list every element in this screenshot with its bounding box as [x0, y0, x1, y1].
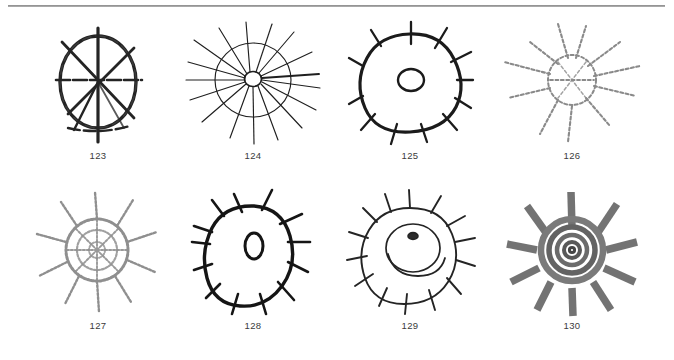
figure-drawing-129 — [330, 186, 490, 318]
figure-cell-125: 125 — [330, 14, 490, 184]
figure-cell-124: 124 — [173, 14, 333, 184]
figure-cell-127: 127 — [18, 184, 178, 354]
figure-caption-127: 127 — [18, 320, 178, 331]
figure-cell-126: 126 — [492, 14, 652, 184]
figure-caption-126: 126 — [492, 150, 652, 161]
figure-cell-128: 128 — [173, 184, 333, 354]
figure-row-top: 123 — [0, 14, 674, 184]
figure-drawing-125 — [330, 16, 490, 148]
figure-drawing-124 — [173, 16, 333, 148]
figure-caption-125: 125 — [330, 150, 490, 161]
figure-drawing-127 — [18, 186, 178, 318]
figure-caption-124: 124 — [173, 150, 333, 161]
figure-cell-130: 130 — [492, 184, 652, 354]
figure-cell-129: 129 — [330, 184, 490, 354]
figure-grid: 123 — [0, 14, 674, 354]
figure-caption-130: 130 — [492, 320, 652, 331]
figure-row-bottom: 127 — [0, 184, 674, 354]
figure-cell-123: 123 — [18, 14, 178, 184]
figure-plate: 123 — [0, 0, 674, 360]
top-horizontal-rule — [8, 5, 665, 7]
figure-caption-123: 123 — [18, 150, 178, 161]
figure-drawing-123 — [18, 16, 178, 148]
figure-caption-129: 129 — [330, 320, 490, 331]
figure-drawing-126 — [492, 16, 652, 148]
figure-caption-128: 128 — [173, 320, 333, 331]
figure-drawing-130 — [492, 186, 652, 318]
figure-drawing-128 — [173, 186, 333, 318]
